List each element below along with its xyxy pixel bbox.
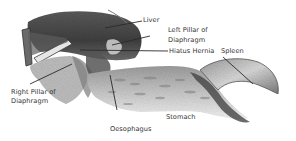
label-stomach: Stomach (166, 113, 195, 121)
label-left-pillar-line2: Diaphragm (168, 36, 205, 44)
anatomy-diagram: Liver Left Pillar of Diaphragm Hiatus He… (0, 0, 296, 141)
label-right-pillar-line1: Right Pillar of (11, 88, 56, 96)
label-oesophagus: Oesophagus (110, 125, 151, 133)
label-left-pillar-line1: Left Pillar of (168, 26, 208, 34)
label-right-pillar-line2: Diaphragm (11, 97, 48, 105)
label-spleen: Spleen (221, 47, 244, 55)
label-liver: Liver (143, 16, 159, 24)
label-hiatus-hernia: Hiatus Hernia (169, 47, 214, 55)
